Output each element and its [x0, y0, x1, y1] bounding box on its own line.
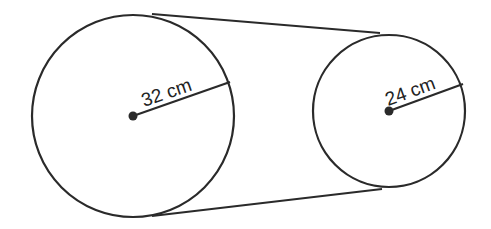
large-center-dot [129, 112, 138, 121]
belt-pulley-diagram: 32 cm 24 cm [0, 0, 491, 229]
diagram-canvas: 32 cm 24 cm [0, 0, 491, 229]
